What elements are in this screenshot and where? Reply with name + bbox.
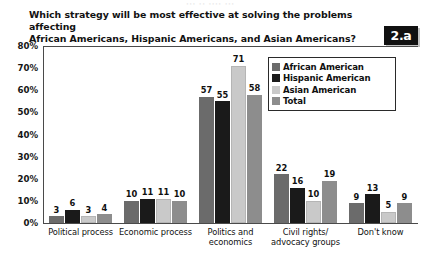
y-axis-tick-label: 0% bbox=[23, 218, 38, 228]
bar-value-label: 71 bbox=[233, 54, 245, 64]
bar-value-label: 10 bbox=[174, 189, 186, 199]
bar-value-label: 58 bbox=[249, 83, 261, 93]
bar-value-label: 9 bbox=[354, 192, 360, 202]
legend-swatch-icon bbox=[272, 63, 280, 71]
y-axis-tick-label: 40% bbox=[17, 130, 38, 140]
bar-column[interactable]: 57 bbox=[199, 46, 214, 223]
bar-column[interactable]: 3 bbox=[81, 46, 96, 223]
bar-value-label: 57 bbox=[201, 85, 213, 95]
bar[interactable] bbox=[381, 212, 396, 223]
bar-value-label: 10 bbox=[308, 189, 320, 199]
bar-value-label: 13 bbox=[367, 183, 379, 193]
bar-value-label: 11 bbox=[158, 187, 170, 197]
x-axis-category-label-line: Politics and bbox=[193, 227, 268, 237]
bar[interactable] bbox=[65, 210, 80, 223]
bar-value-label: 11 bbox=[142, 187, 154, 197]
x-axis-category-label-line: Don't know bbox=[343, 227, 418, 237]
bar-column[interactable]: 4 bbox=[97, 46, 112, 223]
legend-swatch-icon bbox=[272, 74, 280, 82]
x-axis-category-label: Don't know bbox=[343, 227, 418, 247]
figure-number-badge: 2.a bbox=[384, 26, 418, 45]
bar[interactable] bbox=[156, 199, 171, 223]
bar-value-label: 5 bbox=[386, 200, 392, 210]
y-axis-tick-label: 10% bbox=[17, 196, 38, 206]
legend-item[interactable]: Asian American bbox=[272, 84, 391, 96]
chart-page: ··· ·· ···· ··· Which strategy will be m… bbox=[0, 0, 421, 260]
bar[interactable] bbox=[199, 97, 214, 223]
bar-value-label: 6 bbox=[70, 198, 76, 208]
bar-value-label: 55 bbox=[217, 90, 229, 100]
bar-column[interactable]: 71 bbox=[231, 46, 246, 223]
page-title-line-1: Which strategy will be most effective at… bbox=[29, 9, 352, 32]
chart-legend: African AmericanHispanic AmericanAsian A… bbox=[268, 57, 396, 111]
y-axis-tick-label: 80% bbox=[17, 41, 38, 51]
bar-value-label: 10 bbox=[126, 189, 138, 199]
bar-value-label: 4 bbox=[102, 203, 108, 213]
x-axis-labels: Political processEconomic processPolitic… bbox=[43, 227, 418, 247]
x-axis-category-label-line: advocacy groups bbox=[268, 237, 343, 247]
bar-value-label: 22 bbox=[276, 163, 288, 173]
bar[interactable] bbox=[306, 201, 321, 223]
bar[interactable] bbox=[365, 194, 380, 223]
legend-item-label: Asian American bbox=[283, 85, 356, 95]
y-axis-tick-label: 70% bbox=[17, 63, 38, 73]
bar-column[interactable]: 3 bbox=[49, 46, 64, 223]
legend-item[interactable]: Total bbox=[272, 96, 391, 108]
bar[interactable] bbox=[81, 216, 96, 223]
bar[interactable] bbox=[215, 101, 230, 223]
bar-column[interactable]: 11 bbox=[156, 46, 171, 223]
x-axis-category-label-line: Civil rights/ bbox=[268, 227, 343, 237]
legend-item[interactable]: Hispanic American bbox=[272, 73, 391, 85]
y-axis-tick-label: 20% bbox=[17, 174, 38, 184]
x-axis-category-label-line: economics bbox=[193, 237, 268, 247]
page-title: Which strategy will be most effective at… bbox=[29, 9, 374, 46]
bar[interactable] bbox=[349, 203, 364, 223]
x-axis-category-label-line: Economic process bbox=[118, 227, 193, 237]
y-axis-tick-label: 30% bbox=[17, 152, 38, 162]
y-axis: 80%70%60%50%40%30%20%10%0% bbox=[0, 46, 43, 224]
bar-value-label: 16 bbox=[292, 176, 304, 186]
legend-item-label: Hispanic American bbox=[283, 73, 370, 83]
legend-swatch-icon bbox=[272, 86, 280, 94]
y-axis-tick-label: 60% bbox=[17, 85, 38, 95]
y-axis-tick-label: 50% bbox=[17, 107, 38, 117]
bar-group: 10111110 bbox=[118, 46, 193, 223]
legend-item-label: Total bbox=[283, 96, 306, 106]
bar-value-label: 9 bbox=[402, 192, 408, 202]
bar-column[interactable]: 58 bbox=[247, 46, 262, 223]
x-axis-category-label: Civil rights/advocacy groups bbox=[268, 227, 343, 247]
bar[interactable] bbox=[397, 203, 412, 223]
bar[interactable] bbox=[172, 201, 187, 223]
bar-group: 57557158 bbox=[193, 46, 268, 223]
bar-group: 3634 bbox=[43, 46, 118, 223]
bar[interactable] bbox=[290, 188, 305, 223]
bar[interactable] bbox=[247, 95, 262, 223]
bar[interactable] bbox=[97, 214, 112, 223]
bar[interactable] bbox=[49, 216, 64, 223]
bar-column[interactable]: 10 bbox=[172, 46, 187, 223]
bar-column[interactable]: 11 bbox=[140, 46, 155, 223]
bar-column[interactable]: 55 bbox=[215, 46, 230, 223]
x-axis-category-label-line: Political process bbox=[43, 227, 118, 237]
bar-column[interactable]: 6 bbox=[65, 46, 80, 223]
x-axis-category-label: Political process bbox=[43, 227, 118, 247]
bar-value-label: 3 bbox=[86, 205, 92, 215]
x-axis-category-label: Economic process bbox=[118, 227, 193, 247]
bar-column[interactable]: 9 bbox=[397, 46, 412, 223]
bar[interactable] bbox=[231, 66, 246, 223]
x-axis-category-label: Politics andeconomics bbox=[193, 227, 268, 247]
legend-swatch-icon bbox=[272, 97, 280, 105]
bar-column[interactable]: 10 bbox=[124, 46, 139, 223]
page-title-line-2: African Americans, Hispanic Americans, a… bbox=[29, 33, 374, 45]
bar-value-label: 19 bbox=[324, 169, 336, 179]
bar[interactable] bbox=[124, 201, 139, 223]
bar[interactable] bbox=[274, 174, 289, 223]
legend-item-label: African American bbox=[283, 62, 364, 72]
cut-off-header-text: ··· ·· ···· ··· bbox=[0, 0, 421, 7]
bar[interactable] bbox=[140, 199, 155, 223]
bar-value-label: 3 bbox=[54, 205, 60, 215]
legend-item[interactable]: African American bbox=[272, 61, 391, 73]
bar[interactable] bbox=[322, 181, 337, 223]
